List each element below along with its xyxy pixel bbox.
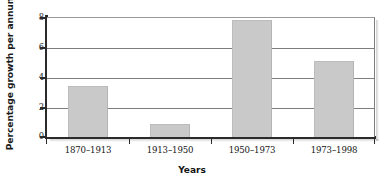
y-axis-tick-labels: 8 6 4 2 0	[26, 0, 44, 184]
x-tick-mark-2	[211, 139, 212, 144]
x-tick-label-1973-1998: 1973–1998	[293, 145, 375, 155]
plot-shadow-bottom	[50, 139, 379, 142]
x-tick-mark-0	[46, 139, 47, 144]
x-tick-mark-4	[374, 139, 375, 144]
x-tick-mark-1	[129, 139, 130, 144]
bar-1913-1950	[150, 124, 190, 137]
y-axis-title-text: Percentage growth per annum	[5, 0, 16, 150]
plot-area	[47, 17, 375, 137]
plot-shadow-right	[376, 20, 379, 141]
x-tick-label-1950-1973: 1950–1973	[211, 145, 293, 155]
x-tick-mark-3	[293, 139, 294, 144]
y-axis-title: Percentage growth per annum	[0, 0, 20, 145]
bar-chart-figure: Percentage growth per annum 8 6 4 2 0 18…	[0, 0, 384, 184]
bar-1950-1973	[232, 20, 272, 138]
bar-1870-1913	[68, 86, 108, 137]
x-axis-title: Years	[0, 165, 384, 175]
x-tick-label-1913-1950: 1913–1950	[129, 145, 211, 155]
gridline-6	[47, 48, 374, 49]
bar-1973-1998	[314, 61, 354, 137]
x-tick-label-1870-1913: 1870–1913	[47, 145, 129, 155]
